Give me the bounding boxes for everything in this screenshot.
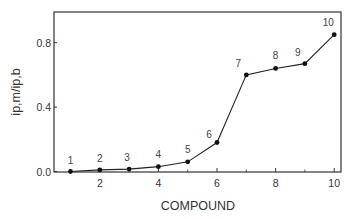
data-point <box>97 167 102 172</box>
point-label: 1 <box>68 155 74 166</box>
x-tick-label: 6 <box>214 177 220 189</box>
point-label: 8 <box>273 50 279 61</box>
x-axis-ticks: 246810 <box>71 168 341 189</box>
point-label: 7 <box>236 58 242 69</box>
point-label: 2 <box>97 153 103 164</box>
y-tick-label: 0.4 <box>36 101 51 113</box>
point-label: 5 <box>185 144 191 155</box>
x-tick-label: 2 <box>97 177 103 189</box>
data-point <box>303 61 308 66</box>
data-point <box>68 169 73 174</box>
x-tick-label: 8 <box>273 177 279 189</box>
y-tick-label: 0.8 <box>36 37 51 49</box>
point-label: 4 <box>156 149 162 160</box>
data-point <box>244 73 249 78</box>
data-point <box>215 140 220 145</box>
data-point <box>127 167 132 172</box>
plot-frame <box>54 12 341 172</box>
y-axis-title: ip,m/ip,b <box>9 68 23 115</box>
point-label: 3 <box>124 152 130 163</box>
data-points: 12345678910 <box>68 17 337 174</box>
point-label: 9 <box>295 47 301 58</box>
chart: 0.00.40.8 246810 12345678910 COMPOUND ip… <box>0 0 354 219</box>
data-point <box>156 164 161 169</box>
data-point <box>185 159 190 164</box>
y-tick-label: 0.0 <box>36 166 51 178</box>
data-point <box>332 32 337 37</box>
x-axis-title: COMPOUND <box>161 199 235 213</box>
data-point <box>273 66 278 71</box>
x-tick-label: 4 <box>155 177 161 189</box>
point-label: 6 <box>206 129 212 140</box>
point-label: 10 <box>323 17 335 28</box>
x-tick-label: 10 <box>328 177 340 189</box>
